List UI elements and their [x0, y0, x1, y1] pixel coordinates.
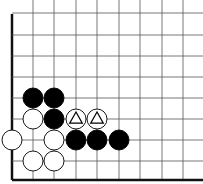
marked-white-stone	[66, 109, 86, 129]
black-stone	[44, 109, 64, 129]
black-stone	[109, 130, 129, 150]
white-stone	[44, 130, 64, 150]
black-stone	[87, 130, 107, 150]
go-board	[0, 0, 203, 184]
white-stone	[23, 151, 43, 171]
stones-layer	[2, 88, 129, 171]
black-stone	[23, 88, 43, 108]
white-stone	[23, 109, 43, 129]
white-stone	[2, 130, 22, 150]
board-grid	[12, 0, 203, 180]
black-stone	[44, 88, 64, 108]
black-stone	[66, 130, 86, 150]
white-stone	[44, 151, 64, 171]
marked-white-stone	[87, 109, 107, 129]
